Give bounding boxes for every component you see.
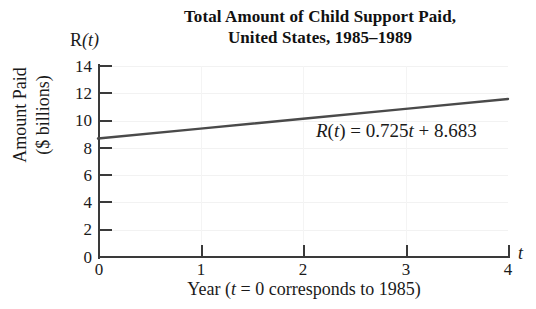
y-axis-tick-label: 6 — [58, 167, 92, 184]
y-axis-symbol-fn: R — [70, 30, 82, 50]
equation-equals: = — [346, 120, 366, 141]
equation-slope: 0.725 — [366, 120, 409, 141]
x-axis-tick-label: 2 — [288, 261, 318, 278]
chart-title-line-2: United States, 1985–1989 — [110, 27, 530, 48]
y-axis-title-line-2: ($ billions) — [32, 20, 55, 210]
y-axis-tick-label: 4 — [58, 194, 92, 211]
x-axis-tick-label: 4 — [493, 261, 523, 278]
chart-figure: Total Amount of Child Support Paid, Unit… — [0, 0, 536, 309]
x-caption-prefix: Year ( — [187, 279, 231, 299]
equation-plus: + — [414, 120, 434, 141]
data-series-line — [98, 66, 510, 258]
y-axis-symbol: R(t) — [70, 30, 99, 51]
x-axis-caption: Year (t = 0 corresponds to 1985) — [98, 278, 510, 300]
y-axis-tick-label: 14 — [58, 58, 92, 75]
x-axis-tick-label: 1 — [186, 261, 216, 278]
equation-intercept: 8.683 — [434, 120, 477, 141]
x-caption-suffix: = 0 corresponds to 1985) — [236, 279, 421, 299]
y-axis-title: Amount Paid ($ billions) — [9, 20, 55, 210]
chart-title: Total Amount of Child Support Paid, Unit… — [110, 6, 530, 48]
y-axis-tick-label: 8 — [58, 140, 92, 157]
equation-annotation: R(t) = 0.725t + 8.683 — [316, 120, 477, 142]
y-axis-tick-label: 10 — [58, 112, 92, 129]
x-axis-tick-label: 3 — [391, 261, 421, 278]
equation-fn: R — [316, 120, 328, 141]
x-axis-tick-label: 0 — [84, 261, 114, 278]
y-axis-title-line-1: Amount Paid — [9, 20, 32, 210]
y-axis-symbol-var: (t) — [82, 30, 99, 50]
y-axis-tick-label: 2 — [58, 221, 92, 238]
y-axis-tick-label: 12 — [58, 85, 92, 102]
chart-title-line-1: Total Amount of Child Support Paid, — [110, 6, 530, 27]
